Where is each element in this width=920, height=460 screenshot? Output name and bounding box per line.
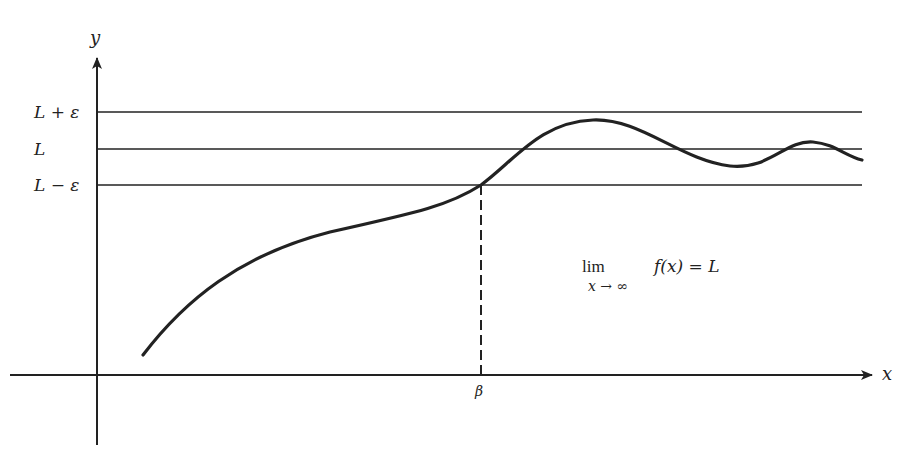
formula-lim: lim (582, 257, 605, 276)
y-axis-label: y (89, 27, 101, 48)
beta-label: β (474, 383, 483, 399)
label-L-minus-epsilon: L − ε (33, 175, 79, 195)
limit-diagram: x y L + ε L L − ε β lim x → ∞ f(x) = L (0, 0, 920, 460)
function-curve (143, 120, 862, 355)
label-L-plus-epsilon: L + ε (33, 102, 79, 122)
formula-subscript: x → ∞ (588, 278, 628, 294)
label-L: L (33, 139, 45, 159)
x-axis-label: x (882, 363, 892, 384)
formula-expression: f(x) = L (652, 256, 720, 276)
